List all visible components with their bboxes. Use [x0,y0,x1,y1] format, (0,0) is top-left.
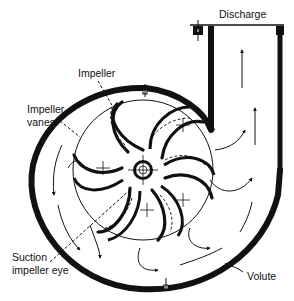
volute-casing [31,84,280,290]
discharge-pipe [190,20,284,170]
impeller [73,100,214,240]
centrifugal-pump-diagram: Discharge Impeller Impeller vanes Suctio… [0,0,294,301]
label-discharge: Discharge [219,8,266,20]
label-volute: Volute [247,270,276,282]
label-suction-1: Suction [12,251,47,263]
label-impeller-vanes-2: vanes [27,116,55,128]
label-suction-2: impeller eye [12,264,69,276]
label-impeller: Impeller [78,67,116,79]
label-impeller-vanes-1: Impeller [27,103,65,115]
